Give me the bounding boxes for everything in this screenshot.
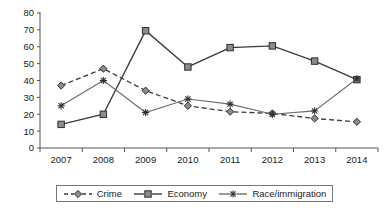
x-tick-label: 2007	[51, 154, 72, 165]
y-tick-label: 10	[23, 126, 34, 137]
data-point-marker	[184, 95, 191, 102]
diamond-marker	[63, 188, 93, 200]
y-tick-label: 80	[23, 7, 34, 18]
legend-item-label: Race/immigration	[252, 189, 326, 199]
legend-marker	[74, 190, 81, 197]
y-tick-label: 50	[23, 58, 34, 69]
y-axis: 01020304050607080	[23, 7, 40, 153]
x-tick-label: 2011	[220, 154, 240, 165]
y-tick-label: 30	[23, 92, 34, 103]
data-point-marker	[100, 77, 107, 84]
data-point-marker	[184, 102, 191, 109]
data-point-marker	[142, 28, 148, 34]
x-tick-label: 2008	[93, 154, 114, 165]
data-point-marker	[100, 111, 106, 117]
data-point-marker	[100, 65, 107, 72]
legend-marker	[230, 190, 237, 197]
chart-legend: CrimeEconomyRace/immigration	[56, 185, 333, 202]
y-tick-label: 60	[23, 41, 34, 52]
legend-item-label: Crime	[97, 189, 122, 199]
line-chart: 01020304050607080 2007200820092010201120…	[0, 0, 389, 212]
square-marker	[133, 188, 163, 200]
data-point-marker	[311, 58, 317, 64]
y-tick-label: 70	[23, 24, 34, 35]
x-tick-label: 2009	[135, 154, 156, 165]
data-point-marker	[269, 111, 276, 118]
y-tick-label: 0	[29, 142, 34, 153]
star-marker	[218, 188, 248, 200]
data-point-marker	[185, 64, 191, 70]
data-point-marker	[353, 118, 360, 125]
x-tick-label: 2010	[177, 154, 198, 165]
legend-item-label: Economy	[167, 189, 207, 199]
data-point-marker	[227, 101, 234, 108]
data-point-marker	[58, 82, 65, 89]
x-tick-label: 2012	[262, 154, 283, 165]
data-point-marker	[58, 102, 65, 109]
x-axis: 20072008200920102011201220132014	[40, 148, 378, 165]
legend-item-race-immigration[interactable]: Race/immigration	[216, 188, 328, 200]
x-tick-label: 2013	[304, 154, 325, 165]
series-container	[58, 28, 361, 128]
data-point-marker	[353, 75, 360, 82]
data-point-marker	[227, 44, 233, 50]
data-point-marker	[142, 87, 149, 94]
data-point-marker	[311, 115, 318, 122]
legend-marker	[145, 190, 151, 196]
legend-item-economy[interactable]: Economy	[131, 188, 209, 200]
data-point-marker	[58, 121, 64, 127]
legend-item-crime[interactable]: Crime	[61, 188, 124, 200]
data-point-marker	[227, 108, 234, 115]
y-tick-label: 20	[23, 109, 34, 120]
y-tick-label: 40	[23, 75, 34, 86]
data-point-marker	[269, 43, 275, 49]
plot-area: 01020304050607080 2007200820092010201120…	[0, 0, 389, 212]
data-point-marker	[142, 109, 149, 116]
data-point-marker	[311, 107, 318, 114]
x-tick-label: 2014	[346, 154, 367, 165]
